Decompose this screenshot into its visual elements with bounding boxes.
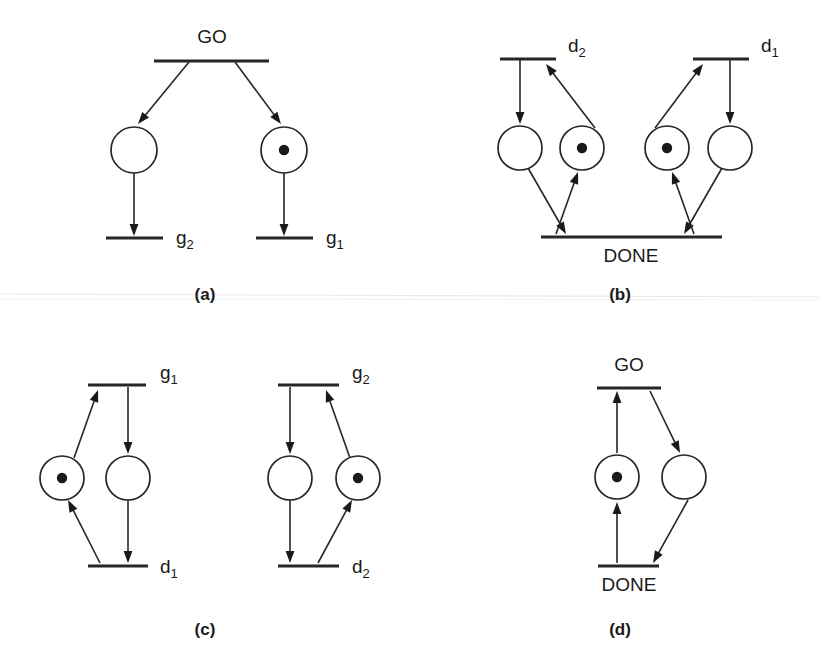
arc-d2-to-place-c4-shaft [318, 508, 347, 563]
petri-net-figure: GOg2g1(a)d2d1DONE(b)g1d1g2d2(c)GODONE(d) [0, 0, 819, 668]
arc-done-to-place-d1-arrowhead [613, 502, 622, 514]
place-c-3[interactable] [268, 456, 312, 500]
arc-go-to-right-place [235, 62, 281, 124]
arc-place-b3-to-d1-arrowhead [692, 64, 703, 76]
arc-place-b1-to-done-shaft [528, 168, 561, 226]
arc-done-to-place-b2-arrowhead [570, 172, 578, 185]
arc-place-d2-to-done-shaft [658, 500, 688, 555]
arc-d1-to-place-c1-shaft [72, 508, 100, 563]
transition-label-c-d2: d2 [352, 556, 370, 581]
arc-d2-to-place-c4-arrowhead [342, 500, 352, 513]
arc-done-to-place-b2 [556, 172, 578, 234]
arc-place-c2-to-d1 [124, 500, 133, 563]
arc-right-place-to-g1-arrowhead [280, 224, 289, 236]
arc-place-d2-to-done-arrowhead [653, 550, 663, 563]
arc-d2-to-place-b1-arrowhead [516, 112, 525, 124]
arc-place-c3-to-d2-arrowhead [286, 551, 295, 563]
panels-layer: GOg2g1(a)d2d1DONE(b)g1d1g2d2(c)GODONE(d) [40, 26, 779, 639]
arc-g1-to-place-c2 [124, 387, 133, 454]
place-a-right-token [279, 145, 289, 155]
arc-place-b2-to-d2-shaft [552, 72, 595, 128]
panel-a-places [111, 127, 307, 173]
arc-done-to-place-b3-arrowhead [672, 172, 680, 185]
arc-go-to-place-d2-arrowhead [671, 440, 680, 453]
arc-place-b2-to-d2-arrowhead [546, 64, 557, 76]
panel-b-places [498, 126, 752, 170]
transition-label-b-d1: d1 [761, 35, 779, 60]
arc-left-place-to-g2 [130, 173, 139, 236]
panel-c-places [40, 456, 380, 500]
arc-place-c1-to-g1 [74, 390, 98, 458]
arc-place-b4-to-done-shaft [689, 168, 722, 226]
transition-label-c-d1: d1 [160, 556, 178, 581]
panel-caption-a: (a) [195, 285, 216, 304]
scan-artifact-group [0, 294, 819, 300]
arc-d2-to-place-c4 [318, 500, 352, 563]
panel-c: g1d1g2d2(c) [40, 362, 380, 639]
arc-go-to-right-place-arrowhead [270, 112, 281, 124]
arc-place-c4-to-g2-arrowhead [326, 390, 334, 403]
arc-go-to-left-place-shaft [144, 62, 189, 117]
transition-label-d-GO: GO [614, 354, 644, 375]
panel-caption-d: (d) [609, 620, 631, 639]
arc-place-c1-to-g1-shaft [74, 399, 95, 458]
transition-label-d-DONE: DONE [602, 574, 657, 595]
place-b-1[interactable] [498, 126, 542, 170]
arc-go-to-place-d2-shaft [650, 391, 676, 444]
arc-place-c4-to-g2 [326, 390, 350, 458]
arc-place-c2-to-d1-arrowhead [124, 551, 133, 563]
arc-place-b2-to-d2 [546, 64, 595, 128]
arc-place-c4-to-g2-shaft [329, 399, 350, 458]
arc-d1-to-place-b4 [726, 60, 735, 124]
arc-d1-to-place-c1 [68, 500, 100, 563]
arc-g1-to-place-c2-arrowhead [124, 442, 133, 454]
transition-label-c-g1: g1 [160, 362, 178, 387]
transition-label-a-g2: g2 [176, 227, 194, 252]
transition-label-b-d2: d2 [568, 35, 586, 60]
arc-d2-to-place-b1 [516, 60, 525, 124]
arc-right-place-to-g1 [280, 173, 289, 236]
arc-d1-to-place-b4-arrowhead [726, 112, 735, 124]
arc-done-to-place-d1 [613, 502, 622, 563]
place-c-4-token [353, 473, 363, 483]
place-a-left[interactable] [111, 127, 157, 173]
panel-caption-c: (c) [195, 620, 216, 639]
transition-label-b-DONE: DONE [604, 245, 659, 266]
arc-go-to-right-place-shaft [235, 62, 275, 116]
arc-left-place-to-g2-arrowhead [130, 224, 139, 236]
scan-line-upper [0, 294, 819, 297]
place-c-2[interactable] [106, 456, 150, 500]
place-d-1-token [612, 472, 622, 482]
arc-place-c1-to-g1-arrowhead [90, 390, 98, 403]
place-c-1-token [57, 473, 67, 483]
panel-d: GODONE(d) [595, 354, 706, 639]
panel-a: GOg2g1(a) [106, 26, 344, 304]
arc-g2-to-place-c3-arrowhead [286, 442, 295, 454]
panel-d-places [595, 455, 706, 499]
place-d-2[interactable] [662, 455, 706, 499]
panel-b-arcs [516, 60, 735, 234]
transition-label-a-g1: g1 [326, 227, 344, 252]
scan-line-lower [0, 299, 819, 300]
arc-place-b3-to-d1 [655, 64, 703, 128]
arc-g2-to-place-c3 [286, 387, 295, 454]
arc-place-b3-to-d1-shaft [655, 72, 697, 128]
figure-canvas: GOg2g1(a)d2d1DONE(b)g1d1g2d2(c)GODONE(d) [0, 0, 819, 668]
panel-b: d2d1DONE(b) [498, 35, 779, 304]
place-b-3-token [662, 143, 672, 153]
arc-done-to-place-b2-shaft [556, 181, 575, 234]
arc-done-to-place-b3-shaft [675, 181, 694, 234]
arc-done-to-place-b3 [672, 172, 694, 234]
arc-place-d1-to-go [613, 391, 622, 453]
place-b-2-token [577, 143, 587, 153]
place-b-4[interactable] [708, 126, 752, 170]
arc-place-d1-to-go-arrowhead [613, 391, 622, 403]
arc-go-to-place-d2 [650, 391, 680, 453]
transition-label-c-g2: g2 [352, 362, 370, 387]
arc-place-d2-to-done [653, 500, 688, 563]
arc-d1-to-place-c1-arrowhead [68, 500, 77, 513]
panel-caption-b: (b) [609, 285, 631, 304]
arc-go-to-left-place [138, 62, 189, 124]
arc-place-c3-to-d2 [286, 500, 295, 563]
transition-label-a-GO: GO [197, 26, 227, 47]
